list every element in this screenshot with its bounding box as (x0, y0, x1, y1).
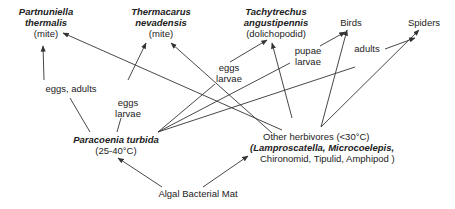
edge-label-pupae-larvae: pupae larvae (291, 45, 325, 67)
node-thermacarus: Thermacarus nevadensis (mite) (121, 6, 201, 39)
edge-paracoenia-thermacarus-lower (117, 118, 121, 132)
edge-paracoenia-partnuniella-upper (43, 46, 44, 80)
edge-label-eggs-adults: eggs, adults (38, 83, 104, 94)
edge-label-eggs-larvae-tachy: eggs larvae (213, 62, 245, 84)
edge-mat-paracoenia (118, 158, 162, 187)
node-partnuniella: Partnuniella thermalis (mite) (16, 6, 76, 39)
node-algal-bacterial-mat: Algal Bacterial Mat (148, 188, 248, 199)
node-herbivores: Other herbivores (<30°C) (Lamproscatella… (250, 131, 430, 164)
edge-paracoenia-birds-upper (320, 32, 345, 46)
edge-paracoenia-spiders-upper (385, 38, 415, 49)
edge-paracoenia-tachy-upper (230, 40, 267, 62)
edge-mat-herbivores (203, 156, 248, 187)
food-web-diagram: Partnuniella thermalis (mite) Thermacaru… (0, 0, 455, 209)
edge-paracoenia-thermacarus-upper (128, 43, 146, 80)
node-tachytrechus: Tachytrechus angustipennis (dolichopodid… (234, 6, 318, 39)
node-paracoenia: Paracoenia turbida (25-40°C) (66, 134, 166, 156)
edge-label-adults: adults (350, 43, 384, 54)
edge-herbivores-partnuniella (63, 33, 282, 130)
node-spiders: Spiders (404, 17, 444, 28)
edge-herbivores-tachy (272, 43, 292, 118)
edge-paracoenia-partnuniella-lower (70, 98, 90, 132)
edge-paracoenia-tachy (158, 84, 215, 132)
edge-label-eggs-larvae-thermacarus: eggs larvae (112, 97, 144, 119)
node-birds: Birds (336, 17, 366, 28)
